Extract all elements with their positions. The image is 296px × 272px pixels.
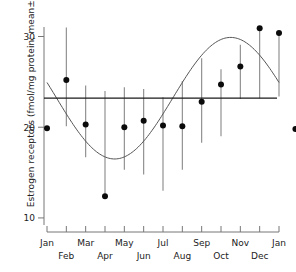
data-point-jan-12 <box>276 30 282 36</box>
y-tick-label-10: 10 <box>24 213 36 223</box>
data-point-mar-2 <box>83 122 89 128</box>
y-tick-label-20: 20 <box>24 123 36 133</box>
y-tick-label-30: 30 <box>24 32 36 42</box>
data-point-jan-0 <box>44 125 50 131</box>
x-tick-label-sep-8: Sep <box>193 238 210 248</box>
y-axis: 102030 <box>24 27 44 225</box>
data-point-dec-11 <box>257 25 263 31</box>
data-point-sep-8 <box>199 99 205 105</box>
data-point-markers <box>44 25 296 199</box>
x-tick-label-mar-2: Mar <box>77 238 94 248</box>
error-bars <box>66 27 279 196</box>
x-tick-label-jul-6: Jul <box>157 238 169 248</box>
x-tick-label-aug-7: Aug <box>174 251 192 261</box>
x-tick-label-dec-11: Dec <box>251 251 268 261</box>
data-point-jun-5 <box>141 118 147 124</box>
x-tick-label-jan-0: Jan <box>39 238 54 248</box>
plot-area: 102030 JanFebMarAprMayJunJulAugSepOctNov… <box>0 0 296 272</box>
x-tick-label-jan-12: Jan <box>271 238 286 248</box>
y-axis-tick-labels: 102030 <box>24 32 36 223</box>
data-point-feb-1 <box>63 77 69 83</box>
x-tick-label-apr-3: Apr <box>97 251 113 261</box>
x-tick-label-feb-1: Feb <box>58 251 74 261</box>
x-tick-label-nov-10: Nov <box>232 238 250 248</box>
data-point-jul-6 <box>160 122 166 128</box>
x-axis: JanFebMarAprMayJunJulAugSepOctNovDecJan <box>39 226 286 261</box>
estrogen-receptor-seasonality-chart: Estrogen receptors (fmol/mg protein; mea… <box>0 0 296 272</box>
data-point-aug-7 <box>179 123 185 129</box>
data-point-oct-9 <box>218 82 224 88</box>
data-point-may-4 <box>121 124 127 130</box>
y-axis-ticks <box>38 37 44 218</box>
x-tick-label-jun-5: Jun <box>136 251 151 261</box>
x-axis-ticks <box>47 226 279 232</box>
x-tick-label-may-4: May <box>115 238 134 248</box>
x-tick-label-oct-9: Oct <box>213 251 229 261</box>
data-point-extra-0 <box>292 126 296 132</box>
x-axis-tick-labels: JanFebMarAprMayJunJulAugSepOctNovDecJan <box>39 238 286 261</box>
data-point-apr-3 <box>102 193 108 199</box>
data-point-nov-10 <box>237 63 243 69</box>
